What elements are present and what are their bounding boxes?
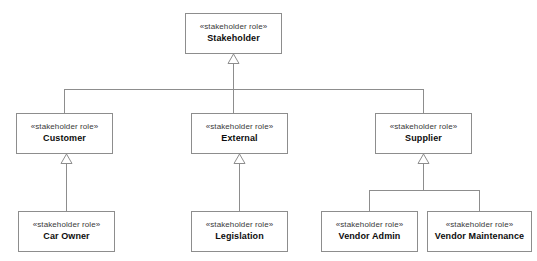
class-box-stakeholder[interactable]: «stakeholder role» Stakeholder <box>185 13 282 54</box>
class-stereotype: «stakeholder role» <box>446 220 514 230</box>
class-stereotype: «stakeholder role» <box>336 220 404 230</box>
class-box-external[interactable]: «stakeholder role» External <box>191 113 288 154</box>
class-name: Customer <box>43 133 86 144</box>
uml-class-diagram: «stakeholder role» Stakeholder «stakehol… <box>0 0 537 261</box>
hollow-triangle-arrowhead-external <box>234 154 245 164</box>
class-stereotype: «stakeholder role» <box>200 22 268 32</box>
class-stereotype: «stakeholder role» <box>31 122 99 132</box>
hollow-triangle-arrowhead-supplier <box>418 154 429 164</box>
class-stereotype: «stakeholder role» <box>33 220 101 230</box>
class-box-car-owner[interactable]: «stakeholder role» Car Owner <box>18 211 115 252</box>
class-name: Stakeholder <box>207 33 260 44</box>
class-box-supplier[interactable]: «stakeholder role» Supplier <box>375 113 472 154</box>
hollow-triangle-arrowhead-customer <box>61 154 72 164</box>
class-box-vendor-admin[interactable]: «stakeholder role» Vendor Admin <box>321 211 418 252</box>
class-box-vendor-maintenance[interactable]: «stakeholder role» Vendor Maintenance <box>427 211 532 252</box>
class-stereotype: «stakeholder role» <box>206 220 274 230</box>
class-box-customer[interactable]: «stakeholder role» Customer <box>16 113 113 154</box>
class-box-legislation[interactable]: «stakeholder role» Legislation <box>191 211 288 252</box>
hollow-triangle-arrowhead-stakeholder <box>228 54 239 64</box>
class-stereotype: «stakeholder role» <box>390 122 458 132</box>
class-name: Vendor Admin <box>339 231 401 242</box>
class-name: Car Owner <box>43 231 89 242</box>
class-name: Legislation <box>215 231 264 242</box>
class-name: External <box>221 133 257 144</box>
class-name: Vendor Maintenance <box>435 231 524 242</box>
class-stereotype: «stakeholder role» <box>206 122 274 132</box>
class-name: Supplier <box>405 133 442 144</box>
